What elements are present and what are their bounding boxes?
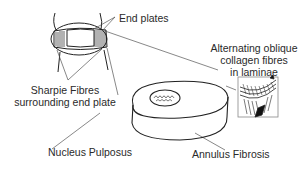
label-annulus-fibrosis: Annulus Fibrosis [192,148,270,160]
label-collagen-line1: Alternating oblique [206,42,302,54]
label-end-plates: End plates [119,12,169,24]
label-nucleus-pulposus: Nucleus Pulposus [48,146,132,158]
collagen-laminae-inset [238,75,278,117]
vertebral-segment-side-view [51,13,108,72]
disc-oblique-view [132,81,228,140]
label-collagen-line2: collagen fibres [206,54,302,66]
label-collagen-line3: in laminae [206,66,302,78]
label-sharpie-fibres-line1: Sharpie Fibres [10,84,120,96]
label-sharpie-fibres: Sharpie Fibres surrounding end plate [10,84,120,108]
label-collagen-fibres: Alternating oblique collagen fibres in l… [206,42,302,78]
label-sharpie-fibres-line2: surrounding end plate [10,96,120,108]
